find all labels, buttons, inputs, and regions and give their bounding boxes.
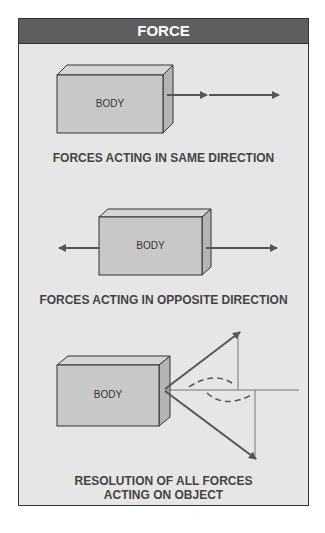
angle-arc-upper [189,378,232,387]
angle-arc-lower [207,393,251,402]
caption-resolution-line2: ACTING ON OBJECT [19,488,308,502]
caption-resolution-line1: RESOLUTION OF ALL FORCES [19,474,308,488]
body-label-2: BODY [99,240,202,251]
force-diagrams [19,19,310,507]
caption-opposite-direction: FORCES ACTING IN OPPOSITE DIRECTION [19,293,308,307]
body-label-1: BODY [57,98,163,109]
caption-same-direction: FORCES ACTING IN SAME DIRECTION [19,151,308,165]
diagram-frame: FORCE [18,18,309,506]
resultant-arrow-down [165,391,256,459]
body-label-3: BODY [57,389,159,400]
